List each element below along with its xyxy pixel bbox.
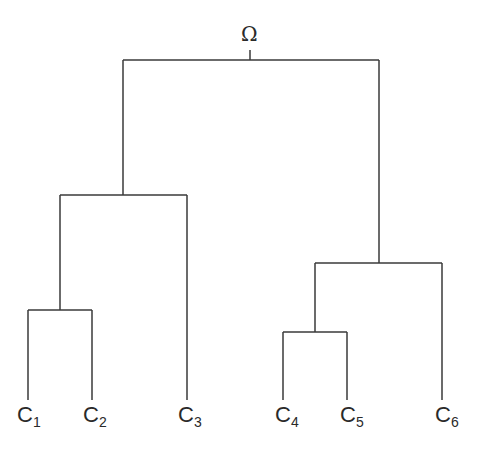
leaf-label-c4: C4 — [275, 404, 299, 429]
leaf-label-c1: C1 — [17, 404, 41, 429]
root-label: Ω — [241, 24, 258, 44]
leaf-label-c2: C2 — [83, 404, 107, 429]
dendrogram-diagram: Ω C1 C2 C3 C4 C5 C6 — [0, 0, 485, 449]
dendrogram-lines — [0, 0, 485, 449]
leaf-label-c3: C3 — [178, 404, 202, 429]
leaf-label-c5: C5 — [340, 404, 364, 429]
leaf-label-c6: C6 — [435, 404, 459, 429]
